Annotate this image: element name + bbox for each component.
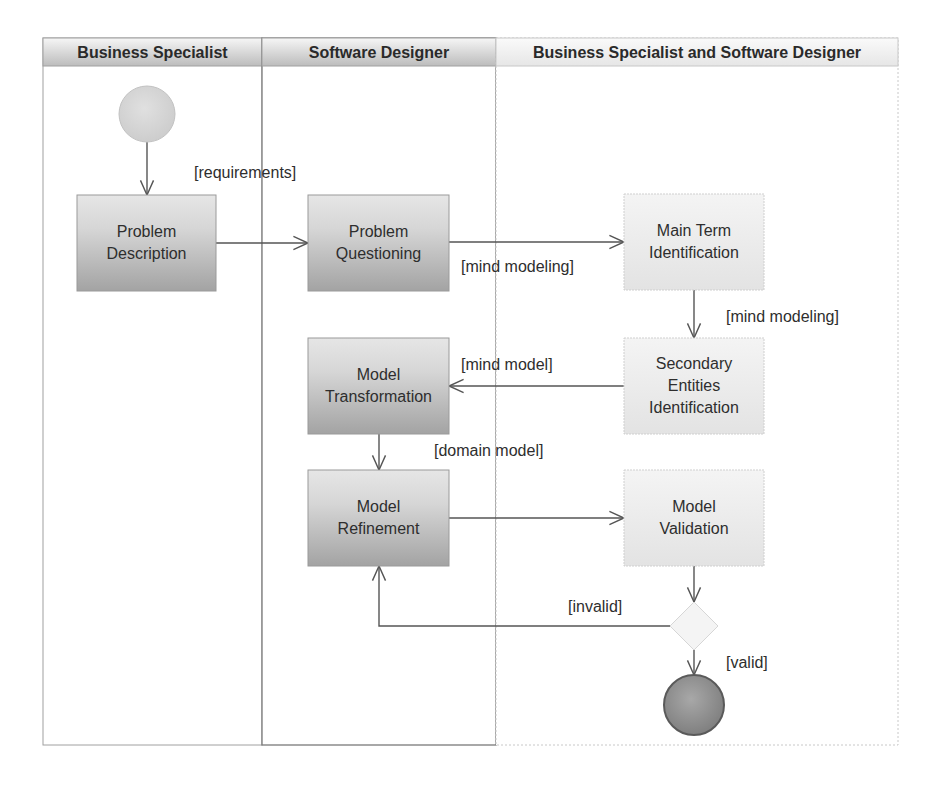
lane-business-specialist: Business Specialist	[43, 38, 262, 745]
activity-diagram: Business SpecialistSoftware DesignerBusi…	[0, 0, 933, 785]
action-box	[308, 195, 449, 291]
final-node-icon	[664, 675, 724, 735]
node-problem-questioning[interactable]: ProblemQuestioning	[308, 195, 449, 291]
guard-label: [mind model]	[461, 356, 553, 373]
action-label: Model	[357, 498, 401, 515]
action-label: Problem	[117, 223, 177, 240]
node-model-validation[interactable]: ModelValidation	[624, 470, 764, 566]
action-box	[624, 470, 764, 566]
node-model-refinement[interactable]: ModelRefinement	[308, 470, 449, 566]
guard-label: [mind modeling]	[461, 258, 574, 275]
action-box	[624, 194, 764, 290]
lane-header-label: Software Designer	[309, 44, 449, 61]
action-box	[308, 338, 449, 434]
action-label: Identification	[649, 244, 739, 261]
action-label: Model	[357, 366, 401, 383]
guard-label: [invalid]	[568, 598, 622, 615]
action-label: Problem	[349, 223, 409, 240]
action-label: Refinement	[338, 520, 420, 537]
node-end[interactable]	[664, 675, 724, 735]
lane-header-label: Business Specialist	[77, 44, 228, 61]
node-model-transformation[interactable]: ModelTransformation	[308, 338, 449, 434]
lane-header-label: Business Specialist and Software Designe…	[533, 44, 861, 61]
guard-label: [valid]	[726, 654, 768, 671]
swimlanes: Business SpecialistSoftware DesignerBusi…	[43, 38, 898, 745]
action-label: Entities	[668, 377, 720, 394]
guard-label: [mind modeling]	[726, 308, 839, 325]
action-label: Main Term	[657, 222, 731, 239]
node-problem-description[interactable]: ProblemDescription	[77, 195, 216, 291]
action-label: Identification	[649, 399, 739, 416]
node-start[interactable]	[119, 86, 175, 142]
guard-label: [requirements]	[194, 164, 296, 181]
action-label: Validation	[659, 520, 728, 537]
node-main-term-identification[interactable]: Main TermIdentification	[624, 194, 764, 290]
guard-label: [domain model]	[434, 442, 543, 459]
action-label: Questioning	[336, 245, 421, 262]
action-box	[77, 195, 216, 291]
initial-node-icon	[119, 86, 175, 142]
action-box	[308, 470, 449, 566]
lane-body	[43, 38, 262, 745]
action-label: Secondary	[656, 355, 733, 372]
action-label: Model	[672, 498, 716, 515]
node-secondary-entities-identification[interactable]: SecondaryEntitiesIdentification	[624, 338, 764, 434]
action-label: Description	[106, 245, 186, 262]
action-label: Transformation	[325, 388, 432, 405]
